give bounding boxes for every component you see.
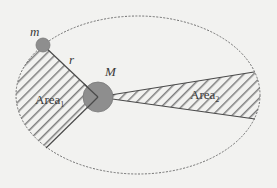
area-2-sector <box>98 68 277 124</box>
radius-label: r <box>69 52 75 67</box>
planet-label: m <box>30 24 39 39</box>
area-1-label: Area1 <box>35 92 64 109</box>
kepler-orbit-diagram: m M r Area1 Area2 <box>0 0 277 188</box>
diagram-canvas: m M r Area1 Area2 <box>0 0 277 188</box>
planet-mass-m <box>36 38 50 52</box>
star-label: M <box>104 64 117 79</box>
area-2-label: Area2 <box>190 87 219 104</box>
